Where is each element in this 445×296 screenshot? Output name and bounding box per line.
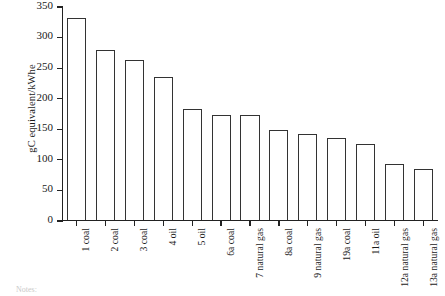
y-axis-tick-label: 300 — [37, 29, 54, 41]
bar — [385, 164, 404, 220]
y-axis-tick: 0 — [57, 220, 63, 221]
bar — [96, 50, 115, 220]
y-axis-tick-label: 100 — [37, 152, 54, 164]
bar — [183, 109, 202, 220]
x-axis-tick — [365, 221, 366, 226]
y-axis-tick: 150 — [57, 129, 63, 130]
x-axis-tick — [192, 221, 193, 226]
x-axis-tick — [249, 221, 250, 226]
y-axis-tick-label: 200 — [37, 91, 54, 103]
y-axis-tick: 200 — [57, 98, 63, 99]
x-axis-category-label: 13a natural gas — [428, 228, 439, 287]
x-axis-tick — [134, 221, 135, 226]
x-axis-tick — [163, 221, 164, 226]
x-axis-category-label: 4 oil — [167, 228, 178, 246]
bar — [240, 115, 259, 220]
bar-chart-figure: gC equivalent/kWhe 050100150200250300350… — [0, 0, 445, 296]
y-axis-line — [62, 6, 63, 221]
x-axis-category-label: 5 oil — [196, 228, 207, 246]
x-axis-category-label: 3 coal — [138, 228, 149, 251]
x-axis-tick — [220, 221, 221, 226]
y-axis-tick: 250 — [57, 68, 63, 69]
bar — [298, 134, 317, 220]
x-axis-category-label: 9 natural gas — [312, 228, 323, 278]
bar — [269, 130, 288, 220]
y-axis-tick: 50 — [57, 190, 63, 191]
y-axis-tick: 300 — [57, 37, 63, 38]
x-axis-category-label: 8a coal — [283, 228, 294, 256]
x-axis-category-label: 1 coal — [80, 228, 91, 251]
x-axis-tick — [336, 221, 337, 226]
y-axis-title: gC equivalent/kWhe — [26, 29, 37, 189]
y-axis-tick: 350 — [57, 6, 63, 7]
x-axis-category-label: 6a coal — [225, 228, 236, 256]
bar — [125, 60, 144, 220]
y-axis-tick-label: 0 — [48, 213, 54, 225]
y-axis-tick-label: 350 — [37, 0, 54, 11]
y-axis-tick-label: 150 — [37, 121, 54, 133]
x-axis-tick — [278, 221, 279, 226]
notes-label: Notes: — [16, 285, 37, 294]
x-axis-tick — [76, 221, 77, 226]
x-axis-tick — [307, 221, 308, 226]
plot-area: 050100150200250300350 1 coal2 coal3 coal… — [62, 6, 438, 221]
x-axis-category-label: 11a oil — [370, 228, 381, 254]
bar — [212, 115, 231, 220]
y-axis-tick-label: 250 — [37, 60, 54, 72]
x-axis-category-label: 19a coal — [341, 228, 352, 261]
bar — [327, 138, 346, 220]
x-axis-category-label: 7 natural gas — [254, 228, 265, 278]
x-axis-category-label: 12a natural gas — [399, 228, 410, 287]
bar — [67, 18, 86, 220]
bar — [356, 144, 375, 220]
x-axis-tick — [423, 221, 424, 226]
y-axis-tick: 100 — [57, 159, 63, 160]
bar — [154, 77, 173, 220]
y-axis-tick-label: 50 — [42, 182, 53, 194]
x-axis-category-label: 2 coal — [109, 228, 120, 251]
x-axis-tick — [394, 221, 395, 226]
bar — [414, 169, 433, 220]
x-axis-tick — [105, 221, 106, 226]
